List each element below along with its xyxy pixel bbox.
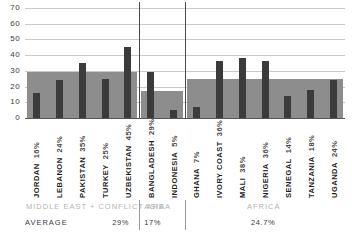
group-divider-1 bbox=[139, 2, 140, 118]
region-label-2: AFRICA bbox=[247, 202, 281, 211]
bar-ivory-coast bbox=[216, 61, 223, 118]
y-tick-label-20: 20 bbox=[0, 82, 20, 91]
bar-pakistan bbox=[79, 63, 86, 118]
plot-area bbox=[25, 8, 345, 118]
region-label-1: ASIA bbox=[144, 202, 165, 211]
y-tick-label-70: 70 bbox=[0, 3, 20, 12]
y-tick-label-40: 40 bbox=[0, 50, 20, 59]
bar-nigeria bbox=[262, 61, 269, 118]
x-axis-labels: JORDAN16%LEBANON24%PAKISTAN35%TURKEY25%U… bbox=[25, 120, 345, 198]
bar-indonesia bbox=[170, 110, 177, 118]
y-tick-label-50: 50 bbox=[0, 34, 20, 43]
bar-uzbekistan bbox=[124, 47, 131, 118]
bar-turkey bbox=[102, 79, 109, 118]
group-divider-2 bbox=[185, 2, 186, 118]
y-tick-label-10: 10 bbox=[0, 97, 20, 106]
bar-bangladesh bbox=[147, 72, 154, 118]
bar-jordan bbox=[33, 93, 40, 118]
bar-mali bbox=[239, 58, 246, 118]
bar-chart: 010203040506070 JORDAN16%LEBANON24%PAKIS… bbox=[0, 0, 352, 235]
gridline-0 bbox=[25, 118, 345, 119]
bar-senegal bbox=[284, 96, 291, 118]
bar-uganda bbox=[330, 80, 337, 118]
y-tick-label-60: 60 bbox=[0, 19, 20, 28]
chart-footer: AVERAGE MIDDLE EAST + CONFLICT AREA29%AS… bbox=[0, 200, 352, 235]
y-tick-label-0: 0 bbox=[0, 113, 20, 122]
average-value-2: 24.7% bbox=[251, 218, 275, 227]
footer-divider-2 bbox=[185, 200, 186, 230]
average-value-1: 17% bbox=[144, 218, 161, 227]
average-value-0: 29% bbox=[112, 218, 129, 227]
y-tick-label-30: 30 bbox=[0, 66, 20, 75]
average-row-label: AVERAGE bbox=[25, 218, 68, 227]
bar-lebanon bbox=[56, 80, 63, 118]
bar-ghana bbox=[193, 107, 200, 118]
bar-tanzania bbox=[307, 90, 314, 118]
